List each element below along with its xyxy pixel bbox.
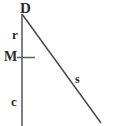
label-segment-r: r xyxy=(12,28,18,41)
label-point-m: M xyxy=(4,50,17,64)
label-segment-s: s xyxy=(75,73,80,85)
diagram-canvas xyxy=(0,0,116,126)
geometry-diagram: D r M c s xyxy=(0,0,116,126)
label-segment-c: c xyxy=(11,95,17,108)
label-point-d: D xyxy=(20,1,31,16)
